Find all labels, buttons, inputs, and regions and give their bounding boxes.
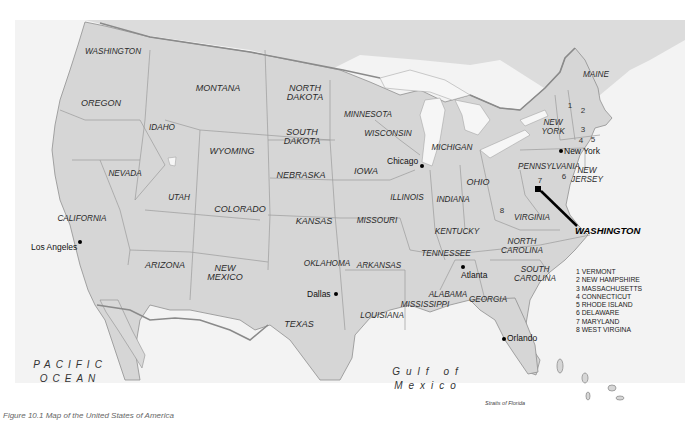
city-label-chicago: Chicago [387,156,418,166]
state-number-legend: 1 VERMONT 2 NEW HAMPSHIRE 3 MASSACHUSETT… [576,268,642,334]
state-label-south-carolina: SOUTH CAROLINA [514,266,556,283]
state-label-nevada: NEVADA [108,170,141,179]
city-label-atlanta: Atlanta [461,270,487,280]
state-number-connecticut: 4 [579,136,583,145]
state-label-arkansas: ARKANSAS [357,262,402,271]
state-number-new-hampshire: 2 [581,106,585,115]
state-label-new-jersey: NEW JERSEY [571,167,603,184]
city-marker-new-york [559,149,563,153]
city-marker-atlanta [461,265,465,269]
state-label-maine: MAINE [583,71,609,80]
state-label-ohio: OHIO [466,178,489,187]
state-number-vermont: 1 [568,101,572,110]
state-label-california: CALIFORNIA [57,215,106,224]
state-label-kansas: KANSAS [296,217,333,226]
state-label-south-dakota: SOUTH DAKOTA [284,128,320,147]
city-marker-los-angeles [78,240,82,244]
state-label-oklahoma: OKLAHOMA [304,260,350,269]
state-label-colorado: COLORADO [214,205,266,214]
state-label-wisconsin: WISCONSIN [364,130,411,139]
state-label-new-york: NEW YORK [541,119,564,136]
city-label-los-angeles: Los Angeles [31,242,77,252]
city-marker-dallas [334,292,338,296]
state-label-north-dakota: NORTH DAKOTA [287,84,323,103]
state-label-oregon: OREGON [81,99,121,108]
legend-item: 4 CONNECTICUT [576,293,642,301]
legend-item: 5 RHODE ISLAND [576,301,642,309]
city-marker-chicago [420,164,424,168]
capital-marker [535,186,541,192]
state-number-massachusetts: 3 [581,125,585,134]
state-label-indiana: INDIANA [436,196,469,205]
state-label-minnesota: MINNESOTA [344,111,392,120]
state-label-missouri: MISSOURI [357,217,398,226]
state-label-texas: TEXAS [284,320,314,329]
state-label-nebraska: NEBRASKA [276,171,325,180]
legend-item: 1 VERMONT [576,268,642,276]
capital-label-washington: WASHINGTON [575,225,640,236]
state-label-michigan: MICHIGAN [432,144,473,153]
legend-item: 3 MASSACHUSETTS [576,285,642,293]
figure-caption: Figure 10.1 Map of the United States of … [3,411,174,420]
label-gulf-of-mexico: Gulf of Mexico [392,365,463,392]
state-label-wyoming: WYOMING [210,147,255,156]
legend-item: 7 MARYLAND [576,318,642,326]
state-label-tennessee: TENNESSEE [421,250,471,259]
state-number-west-virginia: 8 [500,206,504,215]
label-straits-of-florida: Straits of Florida [485,400,525,406]
state-number-delaware: 6 [562,172,566,181]
state-label-utah: UTAH [168,194,190,203]
city-label-new-york: New York [564,146,600,156]
state-label-georgia: GEORGIA [469,296,507,305]
state-label-illinois: ILLINOIS [390,194,424,203]
city-label-orlando: Orlando [507,333,537,343]
legend-item: 2 NEW HAMPSHIRE [576,276,642,284]
state-label-idaho: IDAHO [149,124,175,133]
state-label-montana: MONTANA [196,84,240,93]
state-label-new-mexico: NEW MEXICO [207,264,243,283]
state-label-virginia: VIRGINIA [514,214,550,223]
state-number-maryland: 7 [538,176,542,185]
state-label-kentucky: KENTUCKY [435,228,480,237]
legend-item: 6 DELAWARE [576,309,642,317]
city-label-dallas: Dallas [307,289,331,299]
state-label-mississippi: MISSISSIPPI [401,301,450,310]
state-number-rhode-island: 5 [591,135,595,144]
state-label-arizona: ARIZONA [145,261,185,270]
state-label-alabama: ALABAMA [429,291,468,300]
state-label-washington: WASHINGTON [85,48,141,57]
state-label-north-carolina: NORTH CAROLINA [501,238,543,255]
legend-item: 8 WEST VIRGINA [576,326,642,334]
label-pacific-ocean: PACIFIC OCEAN [33,358,107,385]
state-label-iowa: IOWA [354,167,378,176]
city-marker-orlando [502,337,506,341]
state-label-louisiana: LOUISIANA [360,312,404,321]
